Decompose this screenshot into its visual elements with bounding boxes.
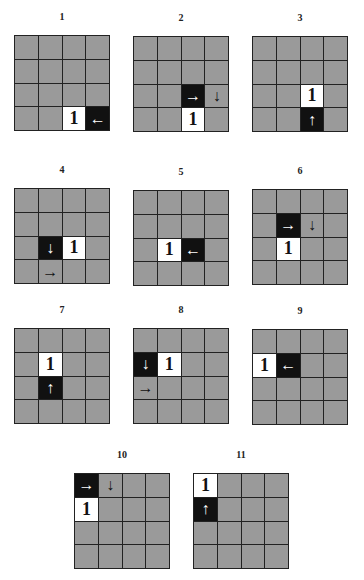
agent-cell: ↑ <box>301 108 324 131</box>
grid-cell <box>99 498 122 521</box>
goal-cell: 1 <box>277 238 300 261</box>
arrow-left-icon: ← <box>280 356 296 374</box>
grid-cell <box>134 400 157 423</box>
grid-cell <box>134 191 157 214</box>
goal-cell: 1 <box>39 353 62 376</box>
grid-cell <box>253 330 276 353</box>
grid-cell <box>158 329 181 352</box>
goal-cell: 1 <box>158 353 181 376</box>
grid-cell <box>301 190 324 213</box>
grid-cell <box>182 262 205 285</box>
grid-cell: → <box>134 377 157 400</box>
grid-cell <box>158 37 181 60</box>
grid-cell <box>123 498 146 521</box>
grid-4x4: →↓1 <box>74 473 170 569</box>
grid-cell <box>277 37 300 60</box>
goal-cell: 1 <box>63 107 86 130</box>
arrow-up-icon: ↑ <box>201 500 209 518</box>
arrow-down-icon: ↓ <box>213 87 221 105</box>
grid-cell <box>15 60 38 83</box>
grid-cell <box>134 37 157 60</box>
value-label: 1 <box>201 475 210 496</box>
grid-cell <box>134 329 157 352</box>
grid-cell <box>158 61 181 84</box>
grid-cell <box>63 60 86 83</box>
grid-cell <box>205 353 228 376</box>
grid-cell <box>158 108 181 131</box>
grid-cell <box>146 498 169 521</box>
grid-cell <box>324 190 347 213</box>
grid-cell <box>86 377 109 400</box>
grid-cell <box>324 214 347 237</box>
grid-cell <box>218 474 241 497</box>
grid-cell <box>158 191 181 214</box>
goal-cell: 1 <box>194 474 217 497</box>
grid-4x4: →↓1 <box>252 189 348 285</box>
panel-label: 4 <box>14 164 110 175</box>
panel-label: 5 <box>133 166 229 177</box>
grid-cell <box>39 189 62 212</box>
grid-4x4: 1← <box>252 329 348 425</box>
grid-cell <box>63 36 86 59</box>
grid-cell <box>277 190 300 213</box>
grid-4x4: 1↑ <box>252 36 348 132</box>
goal-cell: 1 <box>75 498 98 521</box>
grid-cell <box>324 261 347 284</box>
grid-cell <box>15 353 38 376</box>
grid-cell <box>324 85 347 108</box>
grid-cell <box>205 239 228 262</box>
grid-cell <box>324 37 347 60</box>
grid-4x4: 1← <box>133 190 229 286</box>
grid-cell <box>324 238 347 261</box>
agent-cell: → <box>182 85 205 108</box>
grid-cell <box>182 377 205 400</box>
agent-cell: ↑ <box>194 498 217 521</box>
value-label: 1 <box>165 239 174 260</box>
grid-cell <box>86 400 109 423</box>
grid-cell <box>301 378 324 401</box>
grid-cell <box>63 84 86 107</box>
grid-cell <box>15 84 38 107</box>
grid-cell <box>182 215 205 238</box>
grid-cell <box>134 262 157 285</box>
grid-cell <box>205 61 228 84</box>
grid-cell <box>15 260 38 283</box>
grid-cell <box>242 474 265 497</box>
grid-cell <box>63 213 86 236</box>
arrow-down-icon: ↓ <box>141 355 149 373</box>
arrow-right-icon: → <box>42 263 58 281</box>
grid-cell: → <box>39 260 62 283</box>
grid-cell: ↓ <box>99 474 122 497</box>
grid-cell <box>182 191 205 214</box>
agent-cell: ↓ <box>39 237 62 260</box>
agent-cell: ← <box>182 239 205 262</box>
grid-cell <box>134 239 157 262</box>
grid-cell <box>324 354 347 377</box>
arrow-right-icon: → <box>185 87 201 105</box>
grid-cell <box>277 378 300 401</box>
panel-label: 10 <box>74 449 170 460</box>
agent-cell: → <box>75 474 98 497</box>
grid-cell <box>15 36 38 59</box>
arrow-up-icon: ↑ <box>308 111 316 129</box>
grid-cell <box>134 61 157 84</box>
grid-cell <box>63 353 86 376</box>
panel-label: 9 <box>252 305 348 316</box>
grid-cell <box>205 37 228 60</box>
grid-cell <box>194 545 217 568</box>
grid-cell <box>277 108 300 131</box>
grid-cell <box>158 215 181 238</box>
grid-cell <box>242 545 265 568</box>
goal-cell: 1 <box>182 108 205 131</box>
grid-cell <box>134 215 157 238</box>
grid-cell <box>253 238 276 261</box>
grid-cell <box>75 522 98 545</box>
grid-cell <box>277 61 300 84</box>
grid-cell <box>218 522 241 545</box>
grid-cell <box>39 107 62 130</box>
grid-cell: ↓ <box>301 214 324 237</box>
grid-cell <box>134 85 157 108</box>
panel-label: 1 <box>14 11 110 22</box>
grid-cell <box>39 84 62 107</box>
goal-cell: 1 <box>253 354 276 377</box>
